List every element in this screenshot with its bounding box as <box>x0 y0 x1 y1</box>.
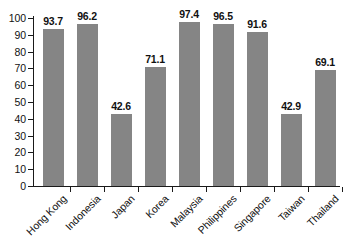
y-tick-label: 60 <box>0 80 26 90</box>
y-tick-label: 40 <box>0 114 26 124</box>
y-tick-label: 50 <box>0 97 26 107</box>
y-tick-mark <box>28 136 34 137</box>
bar-value-label: 96.2 <box>70 11 104 22</box>
bar-value-label: 93.7 <box>36 16 70 27</box>
bar <box>43 29 64 186</box>
x-tick-mark <box>138 187 139 192</box>
bar <box>247 32 268 186</box>
y-tick-label: 80 <box>0 47 26 57</box>
x-tick-mark <box>274 187 275 192</box>
bar <box>315 70 336 186</box>
y-tick-mark <box>28 85 34 86</box>
bar <box>145 67 166 186</box>
x-axis-line <box>33 186 340 187</box>
bar-value-label: 71.1 <box>138 54 172 65</box>
x-tick-mark <box>206 187 207 192</box>
x-tick-mark <box>240 187 241 192</box>
y-tick-mark <box>28 186 34 187</box>
plot-area: 0102030405060708090100 93.796.242.671.19… <box>0 0 348 248</box>
bar-value-label: 42.9 <box>274 101 308 112</box>
y-tick-mark <box>28 102 34 103</box>
x-tick-mark <box>308 187 309 192</box>
y-tick-label: 20 <box>0 147 26 157</box>
bar-value-label: 69.1 <box>308 57 342 68</box>
y-tick-mark <box>28 35 34 36</box>
bar <box>213 24 234 186</box>
y-tick-label: 0 <box>0 181 26 191</box>
bar-value-label: 91.6 <box>240 19 274 30</box>
y-tick-label: 70 <box>0 63 26 73</box>
x-tick-mark <box>172 187 173 192</box>
bar <box>179 22 200 186</box>
y-tick-mark <box>28 68 34 69</box>
bar-value-label: 42.6 <box>104 101 138 112</box>
y-tick-label: 90 <box>0 30 26 40</box>
bar-value-label: 97.4 <box>172 9 206 20</box>
y-tick-mark <box>28 52 34 53</box>
x-tick-mark <box>104 187 105 192</box>
y-tick-mark <box>28 18 34 19</box>
bar <box>77 24 98 186</box>
bar <box>281 114 302 186</box>
bar-value-label: 96.5 <box>206 11 240 22</box>
y-tick-label: 100 <box>0 13 26 23</box>
y-tick-mark <box>28 152 34 153</box>
x-tick-mark <box>342 187 343 192</box>
x-tick-mark <box>70 187 71 192</box>
y-tick-label: 30 <box>0 131 26 141</box>
bar-chart: 0102030405060708090100 93.796.242.671.19… <box>0 0 348 248</box>
bar <box>111 114 132 186</box>
y-tick-mark <box>28 169 34 170</box>
y-tick-mark <box>28 119 34 120</box>
y-tick-label: 10 <box>0 164 26 174</box>
